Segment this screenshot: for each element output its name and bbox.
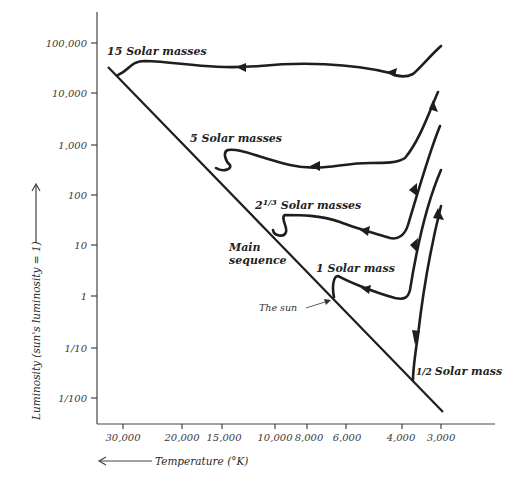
y-tick-label: 100,000 xyxy=(46,38,88,49)
y-tick-label: 10 xyxy=(74,240,87,251)
x-tick-label: 15,000 xyxy=(207,432,243,443)
y-tick-label: 1/100 xyxy=(58,393,87,404)
x-tick-label: 8,000 xyxy=(295,432,324,443)
label-5-solar-masses: 5 Solar masses xyxy=(190,132,282,145)
sun-pointer-arrow-icon xyxy=(324,299,331,305)
label-half-solar-mass: 1/2Solar mass xyxy=(416,365,502,378)
label-15-solar-masses: 15 Solar masses xyxy=(107,45,207,58)
arrow-icon xyxy=(409,183,417,196)
y-tick-label: 100 xyxy=(68,190,88,201)
x-tick-label: 4,000 xyxy=(386,432,416,443)
arrow-icon xyxy=(433,208,444,220)
x-tick-label: 6,000 xyxy=(333,432,362,443)
track-half-solar-mass xyxy=(413,206,441,380)
hr-diagram-chart: 100,000 10,000 1,000 100 10 1 1/10 1/100… xyxy=(0,0,529,495)
arrow-icon xyxy=(236,63,246,72)
arrow-icon xyxy=(410,238,418,252)
arrow-icon xyxy=(360,226,370,236)
x-tick-label: 10,000 xyxy=(258,432,294,443)
x-tick-label: 20,000 xyxy=(164,432,201,443)
label-main-sequence-2: sequence xyxy=(229,254,287,267)
y-axis-title: Luminosity (sun's luminosity = 1) xyxy=(30,184,42,421)
x-tick-label: 30,000 xyxy=(106,432,142,443)
label-2-third-solar-masses: 21/3Solar masses xyxy=(254,197,361,212)
y-tick-labels: 100,000 10,000 1,000 100 10 1 1/10 1/100 xyxy=(46,38,88,404)
x-tick-label: 3,000 xyxy=(427,432,456,443)
x-axis-label: Temperature (°K) xyxy=(155,455,248,467)
x-ticks xyxy=(123,424,441,429)
arrow-icon xyxy=(310,161,320,171)
y-tick-label: 1 xyxy=(81,291,87,302)
label-main-sequence-1: Main xyxy=(228,241,260,254)
y-tick-label: 10,000 xyxy=(52,88,88,99)
x-axis-title: Temperature (°K) xyxy=(99,455,248,467)
y-ticks xyxy=(91,43,97,398)
sun-pointer-line xyxy=(306,301,328,308)
y-tick-label: 1/10 xyxy=(65,343,88,354)
label-the-sun: The sun xyxy=(259,302,297,313)
y-tick-label: 1,000 xyxy=(58,140,87,151)
label-1-solar-mass: 1 Solar mass xyxy=(316,262,395,275)
x-tick-labels: 30,000 20,000 15,000 10,000 8,000 6,000 … xyxy=(106,432,456,443)
y-axis-label: Luminosity (sun's luminosity = 1) xyxy=(30,241,42,421)
